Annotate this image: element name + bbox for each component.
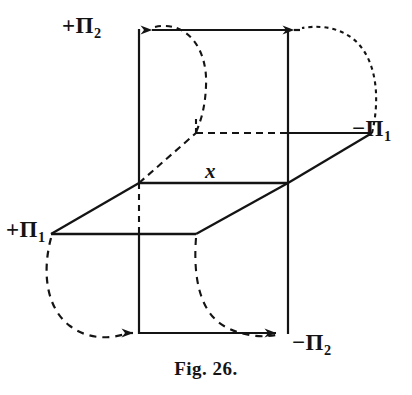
- rotation-arc-lower-left: [47, 238, 125, 337]
- rotation-arc-upper-left: [155, 26, 206, 133]
- label-minus-pi1-symbol: Π: [366, 116, 384, 141]
- geometry-drawing: [0, 0, 412, 395]
- figure-container: +Π2 −Π1 +Π1 −Π2 x Fig. 26.: [0, 0, 412, 395]
- label-minus-pi1-sign: −: [352, 116, 365, 141]
- label-plus-pi1-subscript: 1: [38, 229, 45, 245]
- label-plus-pi2-symbol: Π: [76, 13, 94, 38]
- horizontal-plane-front-left-edge: [51, 183, 139, 234]
- label-plus-pi2-subscript: 2: [94, 25, 101, 41]
- label-minus-pi2: −Π2: [292, 331, 331, 357]
- label-minus-pi2-symbol: Π: [306, 330, 324, 355]
- label-plus-pi1-symbol: Π: [20, 217, 38, 242]
- horizontal-plane-left-receding-edge-hidden: [139, 133, 196, 183]
- horizontal-plane-front-right-edge: [196, 183, 288, 234]
- label-minus-pi2-subscript: 2: [324, 342, 331, 358]
- figure-caption: Fig. 26.: [0, 358, 412, 380]
- label-minus-pi1-subscript: 1: [384, 128, 391, 144]
- label-minus-pi2-sign: −: [292, 330, 305, 355]
- label-plus-pi2-sign: +: [62, 13, 75, 38]
- label-plus-pi2: +Π2: [62, 14, 101, 40]
- ground-line-label-x: x: [205, 159, 216, 184]
- rotation-arc-lower-right: [195, 238, 276, 336]
- label-plus-pi1: +Π1: [6, 218, 45, 244]
- label-minus-pi1: −Π1: [352, 117, 391, 143]
- label-plus-pi1-sign: +: [6, 217, 19, 242]
